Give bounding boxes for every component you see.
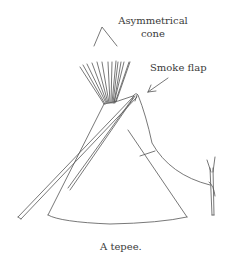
tepee-figure: Asymmetrical cone Smoke flap A tepee.	[0, 0, 236, 267]
asymmetrical-cone-icon	[94, 27, 117, 46]
tepee-poles	[80, 61, 130, 104]
cone-label-line1: Asymmetrical	[118, 14, 188, 27]
smoke-flap-arrow-icon	[148, 78, 168, 92]
tepee-illustration	[0, 0, 236, 267]
tie-stake	[207, 157, 215, 215]
asymmetrical-cone-label: Asymmetrical cone	[118, 14, 188, 40]
figure-caption: A tepee.	[100, 240, 142, 253]
tepee-cover	[48, 96, 187, 224]
flap-pole	[18, 96, 137, 219]
smoke-flap	[133, 94, 210, 185]
cone-label-line2: cone	[118, 27, 188, 40]
smoke-flap-label: Smoke flap	[150, 61, 207, 74]
